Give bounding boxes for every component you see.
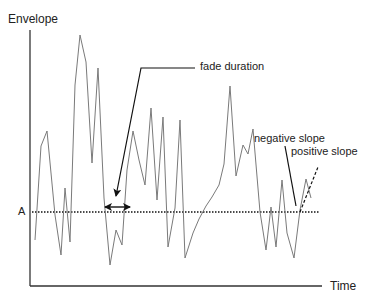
- y-axis-label: Envelope: [8, 13, 58, 25]
- x-axis-label: Time: [330, 280, 356, 292]
- threshold-label: A: [18, 206, 25, 217]
- envelope-fade-diagram: Envelope Time A fade duration negative s…: [0, 0, 370, 304]
- negative-slope-label: negative slope: [254, 133, 325, 144]
- fade-duration-annotation: [105, 68, 195, 207]
- envelope-signal: [35, 35, 311, 265]
- fade-duration-label: fade duration: [200, 61, 264, 72]
- positive-slope-label: positive slope: [291, 146, 358, 157]
